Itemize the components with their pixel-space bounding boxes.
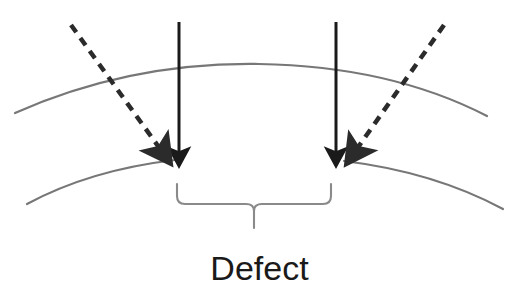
defect-brace [177,184,331,228]
figure-canvas: Defect [0,0,519,308]
dashed-arrow-left [71,25,163,153]
dashed-arrow-right [354,25,444,153]
defect-diagram-svg [0,0,519,308]
lower-surface-curve-left [27,160,175,204]
lower-surface-curve-right [344,161,503,209]
upper-surface-curve [15,64,487,116]
